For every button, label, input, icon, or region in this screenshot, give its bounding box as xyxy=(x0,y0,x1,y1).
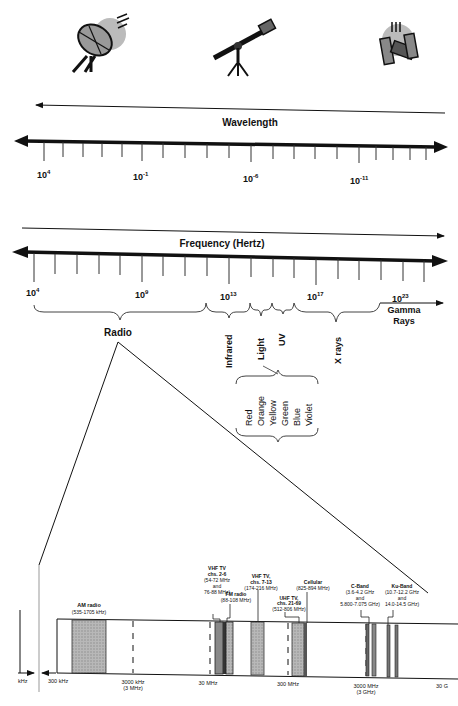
ku-band-1 xyxy=(387,625,390,677)
telescope-icon xyxy=(214,19,276,76)
electromagnetic-spectrum-diagram: Wavelength 104 10-1 xyxy=(0,0,458,706)
uv-label: UV xyxy=(277,333,287,346)
svg-text:10-11: 10-11 xyxy=(350,175,369,186)
svg-text:10-1: 10-1 xyxy=(133,171,149,182)
light-label: Light xyxy=(256,338,266,360)
svg-text:1017: 1017 xyxy=(307,291,324,302)
cellular-band xyxy=(304,623,307,676)
radio-axis-labels: kHz 300 kHz 3000 kHz (3 MHz) 30 MHz 300 … xyxy=(18,678,448,695)
gamma-rays-label: Gamma xyxy=(387,305,421,315)
wavelength-axis: 104 10-1 10-6 10-11 xyxy=(14,135,448,186)
svg-text:(825-894 MHz): (825-894 MHz) xyxy=(296,585,330,591)
region-braces xyxy=(34,303,380,322)
zoom-line-left xyxy=(39,342,118,565)
band-labels: AM radio (535-1705 kHz) VHF TV chs. 2-6 … xyxy=(72,565,420,615)
svg-text:AM radio: AM radio xyxy=(77,602,101,608)
c-band-1 xyxy=(366,624,369,676)
svg-text:Yellow: Yellow xyxy=(268,400,278,426)
wavelength-title: Wavelength xyxy=(222,117,278,128)
radio-label: Radio xyxy=(104,327,132,338)
fm-radio-band xyxy=(226,622,233,674)
svg-text:Orange: Orange xyxy=(256,396,266,426)
svg-text:(3 GHz): (3 GHz) xyxy=(356,689,375,695)
svg-text:Blue: Blue xyxy=(292,408,302,426)
zoom-line-right xyxy=(118,342,428,593)
vhf-low-band xyxy=(215,622,223,674)
light-brace xyxy=(236,370,318,384)
am-radio-band xyxy=(72,620,106,673)
vhf-high-band xyxy=(251,622,264,675)
svg-text:30 MHz: 30 MHz xyxy=(199,680,218,686)
xray-satellite-icon xyxy=(380,22,418,65)
svg-text:Green: Green xyxy=(280,401,290,426)
svg-text:1023: 1023 xyxy=(392,293,409,304)
svg-text:109: 109 xyxy=(135,289,149,300)
xrays-label: X rays xyxy=(333,337,343,364)
infrared-label: Infrared xyxy=(224,334,234,368)
gamma-rays-label-2: Rays xyxy=(393,316,415,326)
svg-text:104: 104 xyxy=(37,169,51,180)
visible-colors: Red Orange Yellow Green Blue Violet xyxy=(244,396,314,426)
wavelength-direction-arrow xyxy=(36,105,445,113)
svg-text:5.800-7.075 GHz): 5.800-7.075 GHz) xyxy=(340,601,380,607)
svg-text:(88-108 MHz): (88-108 MHz) xyxy=(221,597,252,603)
svg-text:Violet: Violet xyxy=(304,403,314,426)
svg-text:(174-216 MHz): (174-216 MHz) xyxy=(244,585,278,591)
svg-text:(512-806 MHz): (512-806 MHz) xyxy=(272,606,306,612)
uhf-band xyxy=(292,623,304,676)
light-pointer xyxy=(263,366,278,374)
svg-text:(3 MHz): (3 MHz) xyxy=(123,685,143,691)
svg-text:10-6: 10-6 xyxy=(243,173,259,184)
frequency-direction-arrow xyxy=(22,228,444,236)
svg-text:Red: Red xyxy=(244,409,254,426)
svg-text:1013: 1013 xyxy=(220,291,237,302)
satellite-dish-icon xyxy=(72,14,129,72)
svg-text:300 MHz: 300 MHz xyxy=(277,681,299,687)
svg-text:300 kHz: 300 kHz xyxy=(48,678,68,684)
frequency-axis: 104 109 1013 1017 1023 xyxy=(12,246,448,304)
svg-text:104: 104 xyxy=(26,287,40,298)
svg-text:30 G: 30 G xyxy=(436,683,448,689)
colors-bottom-brace xyxy=(236,428,318,442)
svg-text:14.0-14.5 GHz): 14.0-14.5 GHz) xyxy=(385,601,420,607)
frequency-title: Frequency (Hertz) xyxy=(179,238,264,249)
c-band-2 xyxy=(372,624,376,676)
svg-text:kHz: kHz xyxy=(18,678,28,684)
svg-text:(535-1705 kHz): (535-1705 kHz) xyxy=(72,609,107,615)
ku-band-2 xyxy=(395,625,398,677)
